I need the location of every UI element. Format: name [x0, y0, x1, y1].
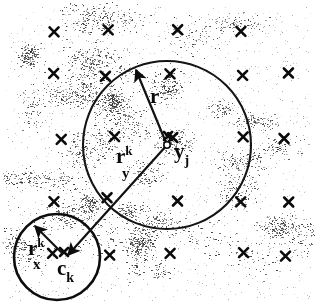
label-cluster-center: ck — [57, 258, 74, 282]
label-query-radius: r — [150, 86, 159, 107]
label-query-point: yj — [174, 141, 189, 165]
label-layer: r rky yj rkx ck — [0, 0, 316, 306]
label-cluster-radius: rkx — [28, 238, 45, 259]
label-node-to-center-distance: rky — [116, 146, 133, 167]
diagram-figure: r rky yj rkx ck — [0, 0, 316, 306]
